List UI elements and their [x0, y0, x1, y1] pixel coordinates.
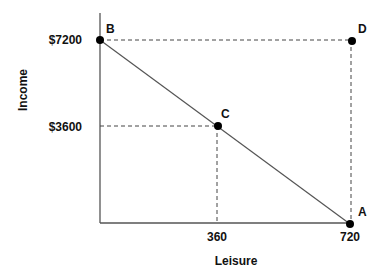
point-b-marker: [96, 36, 104, 44]
x-axis-title: Leisure: [215, 254, 258, 268]
point-c-label: C: [221, 107, 230, 121]
y-tick-7200: $7200: [49, 33, 83, 47]
y-axis-title: Income: [16, 69, 30, 111]
income-leisure-chart: B D C A $7200 $3600 360 720 Leisure Inco…: [0, 0, 380, 275]
x-tick-360: 360: [207, 230, 227, 244]
point-a-label: A: [358, 205, 367, 219]
point-a-marker: [346, 220, 354, 228]
point-b-label: B: [106, 22, 115, 36]
point-c-marker: [214, 122, 222, 130]
x-tick-720: 720: [340, 230, 360, 244]
point-d-marker: [348, 37, 356, 45]
budget-line: [100, 40, 350, 224]
point-d-label: D: [358, 22, 367, 36]
y-tick-3600: $3600: [49, 120, 83, 134]
